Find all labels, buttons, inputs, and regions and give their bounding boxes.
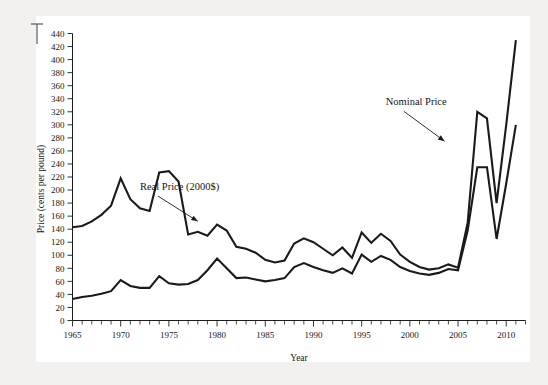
x-tick-label-1965: 1965 [64, 330, 83, 340]
y-tick-label-440: 440 [51, 29, 65, 39]
price-line-chart: 0204060801001201401601802002202402602803… [0, 0, 548, 385]
y-tick-label-360: 360 [51, 81, 65, 91]
y-tick-label-340: 340 [51, 94, 65, 104]
y-tick-label-320: 320 [51, 107, 65, 117]
x-tick-label-2000: 2000 [401, 330, 420, 340]
x-axis-title: Year [290, 353, 308, 363]
y-tick-label-220: 220 [51, 172, 65, 182]
y-tick-label-140: 140 [51, 224, 65, 234]
annotation-label-real-price-2000: Real Price (2000$) [140, 181, 220, 193]
y-tick-label-40: 40 [56, 290, 66, 300]
y-tick-label-260: 260 [51, 146, 65, 156]
x-tick-label-1975: 1975 [160, 330, 179, 340]
y-tick-label-240: 240 [51, 159, 65, 169]
y-tick-label-380: 380 [51, 68, 65, 78]
y-tick-label-20: 20 [56, 303, 66, 313]
y-tick-label-180: 180 [51, 198, 65, 208]
x-tick-label-1995: 1995 [353, 330, 372, 340]
x-tick-label-2010: 2010 [497, 330, 516, 340]
x-tick-label-1970: 1970 [112, 330, 131, 340]
y-axis-title: Price (cents per pound) [36, 145, 47, 233]
x-tick-label-1990: 1990 [304, 330, 323, 340]
y-tick-label-80: 80 [56, 264, 66, 274]
x-tick-label-1980: 1980 [208, 330, 227, 340]
y-tick-label-280: 280 [51, 133, 65, 143]
x-tick-label-2005: 2005 [449, 330, 468, 340]
y-tick-label-120: 120 [51, 237, 65, 247]
x-tick-label-1985: 1985 [256, 330, 275, 340]
y-tick-label-200: 200 [51, 185, 65, 195]
chart-figure: 0204060801001201401601802002202402602803… [0, 0, 548, 385]
y-tick-label-60: 60 [56, 277, 66, 287]
y-tick-label-420: 420 [51, 42, 65, 52]
y-tick-label-0: 0 [60, 316, 65, 326]
y-tick-label-160: 160 [51, 211, 65, 221]
plot-panel [36, 16, 530, 362]
annotation-label-nominal-price: Nominal Price [386, 96, 447, 107]
y-tick-label-400: 400 [51, 55, 65, 65]
y-tick-label-300: 300 [51, 120, 65, 130]
y-tick-label-100: 100 [51, 250, 65, 260]
